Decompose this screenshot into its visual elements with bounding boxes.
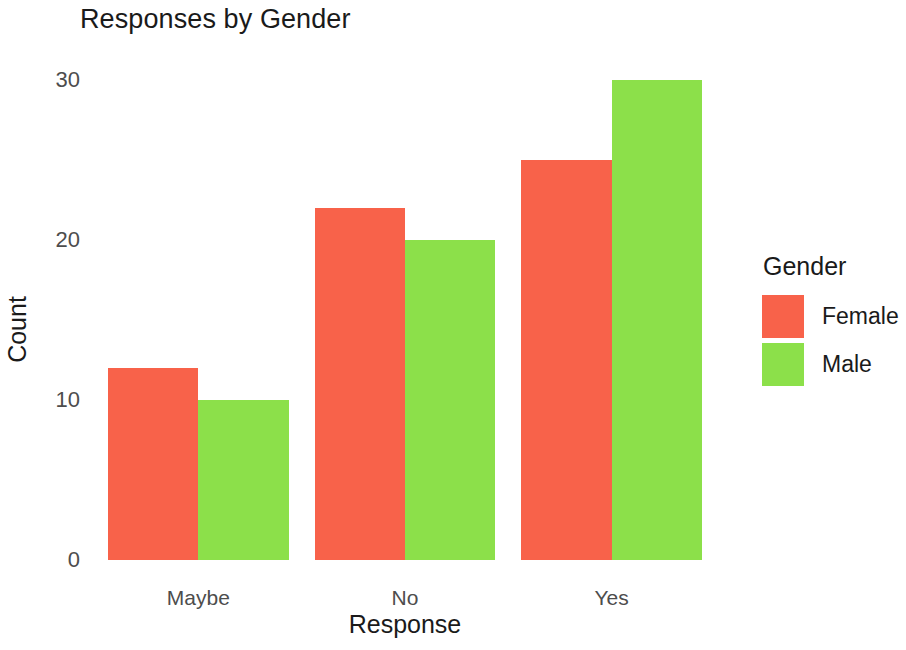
legend-entries: FemaleMale (762, 295, 899, 386)
legend: Gender FemaleMale (762, 252, 899, 391)
legend-title: Gender (763, 252, 899, 281)
bar-no-female (315, 208, 405, 560)
legend-item-female[interactable]: Female (762, 295, 899, 338)
y-tick-label-30: 30 (56, 67, 80, 93)
legend-swatch-female (762, 295, 804, 338)
plot-area (95, 70, 715, 560)
legend-label-female: Female (822, 303, 899, 330)
x-tick-label-yes: Yes (595, 586, 629, 610)
bar-maybe-female (108, 368, 198, 560)
bar-yes-female (521, 160, 611, 560)
legend-swatch-male (762, 343, 804, 386)
x-tick-label-no: No (392, 586, 419, 610)
bar-yes-male (612, 80, 702, 560)
legend-item-male[interactable]: Male (762, 343, 899, 386)
y-tick-label-20: 20 (56, 227, 80, 253)
y-tick-label-10: 10 (56, 387, 80, 413)
bar-no-male (405, 240, 495, 560)
legend-label-male: Male (822, 351, 872, 378)
y-tick-label-0: 0 (68, 547, 80, 573)
chart-title: Responses by Gender (80, 4, 351, 35)
bar-chart: Responses by Gender 0102030 Count Respon… (0, 0, 906, 650)
x-axis-title: Response (0, 610, 810, 639)
x-tick-label-maybe: Maybe (167, 586, 230, 610)
y-axis-title: Count (3, 290, 32, 370)
bar-maybe-male (198, 400, 288, 560)
